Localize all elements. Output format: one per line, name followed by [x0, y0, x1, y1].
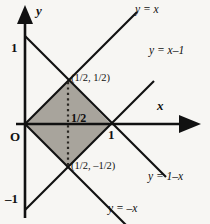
x-axis-arrowhead [179, 115, 201, 133]
plot-canvas [0, 0, 210, 224]
label-line-y-equals-x: y = x [135, 4, 159, 16]
top-vertex-coordinate-label: (1/2, 1/2) [71, 73, 110, 84]
y-tick-label-minus-1: –1 [5, 192, 18, 205]
y-tick-label-1: 1 [11, 41, 18, 54]
y-axis-arrowhead [17, 5, 33, 24]
origin-label: O [10, 130, 20, 143]
label-line-y-equals-1-minus-x: y = 1–x [148, 171, 183, 183]
x-axis-label: x [157, 99, 164, 112]
midpoint-length-label: 1/2 [71, 112, 86, 124]
math-figure-region-plot: y x O 1 –1 1 1/2 (1/2, 1/2) (1/2, –1/2) … [0, 0, 210, 224]
y-axis-label: y [36, 4, 42, 17]
label-line-y-equals-x-minus-1: y = x–1 [149, 45, 184, 57]
label-line-y-equals-negative-x: y = –x [108, 203, 137, 215]
x-tick-label-1: 1 [108, 128, 115, 141]
bottom-vertex-coordinate-label: (1/2, –1/2) [71, 161, 115, 172]
